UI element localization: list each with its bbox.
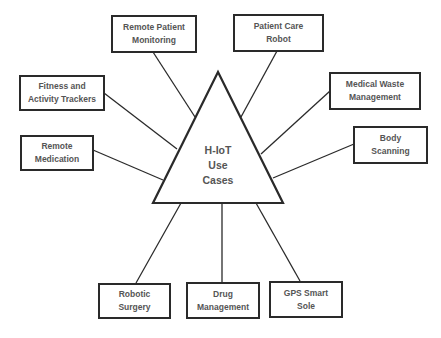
node-robotic-surgery: Robotic Surgery bbox=[98, 283, 171, 319]
connector-fitness-activity-trackers bbox=[104, 93, 177, 149]
connector-body-scanning bbox=[273, 144, 354, 178]
node-body-scanning: Body Scanning bbox=[353, 126, 428, 164]
node-medical-waste-management: Medical Waste Management bbox=[329, 72, 421, 110]
connector-medical-waste-management bbox=[261, 91, 330, 154]
connector-gps-smart-sole bbox=[256, 203, 300, 281]
connector-patient-care-robot bbox=[241, 51, 277, 117]
center-label: H-IoT Use Cases bbox=[188, 143, 248, 188]
connector-remote-medication bbox=[93, 150, 163, 180]
node-drug-management: Drug Management bbox=[186, 282, 260, 319]
node-remote-patient-monitoring: Remote Patient Monitoring bbox=[111, 15, 197, 53]
node-gps-smart-sole: GPS Smart Sole bbox=[269, 281, 343, 318]
node-remote-medication: Remote Medication bbox=[20, 135, 94, 171]
connector-robotic-surgery bbox=[136, 203, 181, 283]
connector-remote-patient-monitoring bbox=[153, 52, 195, 117]
node-patient-care-robot: Patient Care Robot bbox=[233, 14, 324, 52]
node-fitness-activity-trackers: Fitness and Activity Trackers bbox=[19, 75, 105, 111]
